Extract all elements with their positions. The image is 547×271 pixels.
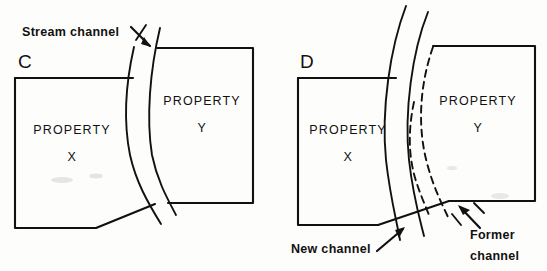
panel-d-property-x-designator: X <box>344 150 353 164</box>
panel-d-new-channel-left-bank <box>385 6 406 240</box>
panel-c-property-x-designator: X <box>68 150 77 164</box>
panel-c-property-x-name: PROPERTY <box>33 123 110 137</box>
panel-c-property-y-designator: Y <box>198 121 207 135</box>
former-channel-leader-tick-1 <box>452 214 461 225</box>
panel-c-property-y-name: PROPERTY <box>163 94 240 108</box>
stream-channel-label: Stream channel <box>22 25 119 39</box>
panel-d-property-x-name: PROPERTY <box>309 123 386 137</box>
diagram-canvas: C Stream channel PROPERTY X PROPERTY Y <box>0 0 547 271</box>
panel-d-former-channel-outer-bank <box>421 47 448 217</box>
former-channel-label-line2: channel <box>470 249 519 263</box>
panel-d-property-x-boundary <box>298 78 378 225</box>
panel-c-scan-artifacts <box>51 174 103 184</box>
former-channel-arrowhead <box>458 205 470 215</box>
panel-c-property-x-boundary <box>15 78 155 228</box>
panel-d-property-y-designator: Y <box>474 121 483 135</box>
panel-d-scan-artifacts <box>447 166 509 199</box>
figure-root: C Stream channel PROPERTY X PROPERTY Y <box>0 0 547 271</box>
panel-d: D PROPERTY X PROPERTY Y New channel Form… <box>291 6 535 263</box>
panel-c-letter: C <box>18 51 32 72</box>
panel-d-new-channel-right-bank <box>408 12 428 236</box>
panel-d-property-y-boundary <box>433 46 535 201</box>
former-channel-label-line1: Former <box>470 228 515 242</box>
panel-c: C Stream channel PROPERTY X PROPERTY Y <box>15 25 253 228</box>
panel-d-boundary-segment-bottom <box>378 201 449 225</box>
panel-d-letter: D <box>300 51 314 72</box>
new-channel-label: New channel <box>291 242 371 256</box>
panel-c-stream-left-bank <box>126 47 161 224</box>
panel-d-property-y-name: PROPERTY <box>439 94 516 108</box>
panel-c-stream-right-bank <box>149 28 176 215</box>
former-channel-leader-tick-2 <box>474 203 484 213</box>
